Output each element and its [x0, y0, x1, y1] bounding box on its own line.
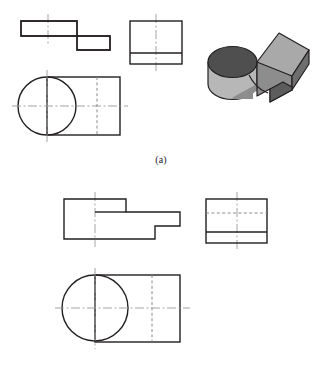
panel-a-pictorial-view — [208, 33, 309, 102]
figure-panel-a: (a) — [0, 0, 322, 190]
top-view-stepped-profile — [21, 21, 110, 50]
right-view-outline — [206, 199, 267, 243]
panel-b-top-view — [64, 192, 180, 247]
panel-a-front-view — [12, 70, 128, 142]
front-view-rectangle — [95, 275, 180, 342]
panel-b-drawing — [0, 180, 322, 385]
panel-a-right-side-view — [130, 14, 182, 71]
panel-a-caption: (a) — [0, 154, 322, 165]
figure-page: (a) — [0, 0, 322, 385]
panel-a-top-view — [21, 14, 110, 50]
top-view-stepped-profile — [64, 199, 180, 239]
figure-panel-b: (b) — [0, 180, 322, 385]
panel-b-front-view — [55, 268, 190, 349]
pictorial-cylinder-top-face — [208, 47, 257, 78]
panel-b-right-side-view — [206, 192, 267, 250]
